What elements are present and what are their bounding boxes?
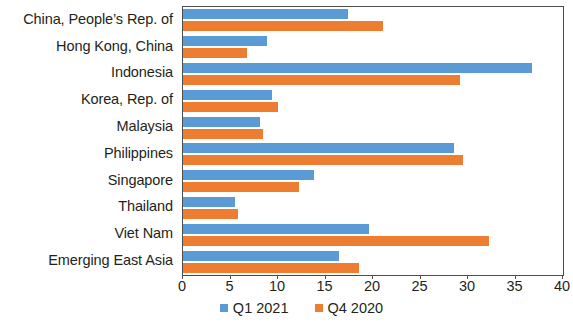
category-axis: China, People’s Rep. ofHong Kong, ChinaI…: [0, 6, 178, 274]
bar-q4-2020: [183, 129, 263, 139]
axis-tick-label: 25: [411, 279, 427, 295]
axis-tick-label: 20: [364, 279, 380, 295]
axis-tick-label: 30: [459, 279, 475, 295]
bar-q4-2020: [183, 182, 299, 192]
bar-q1-2021: [183, 170, 314, 180]
category-label: Thailand: [0, 194, 178, 221]
bar-q1-2021: [183, 90, 272, 100]
bars-layer: [183, 7, 563, 275]
category-label: China, People’s Rep. of: [0, 6, 178, 33]
category-label: Viet Nam: [0, 220, 178, 247]
chart-legend: Q1 2021Q4 2020: [0, 301, 573, 316]
bar-group: [183, 34, 563, 61]
legend-label: Q1 2021: [233, 301, 289, 316]
legend-item[interactable]: Q1 2021: [220, 301, 289, 316]
value-axis: 0510152025303540: [182, 275, 564, 299]
axis-tick-label: 40: [554, 279, 570, 295]
category-label: Malaysia: [0, 113, 178, 140]
axis-tick-label: 35: [506, 279, 522, 295]
category-label: Emerging East Asia: [0, 247, 178, 274]
axis-tick-label: 5: [225, 279, 233, 295]
axis-tick-label: 10: [269, 279, 285, 295]
bar-q4-2020: [183, 75, 460, 85]
plot-area: [182, 6, 564, 276]
bar-q4-2020: [183, 48, 247, 58]
bar-q1-2021: [183, 63, 532, 73]
bar-group: [183, 7, 563, 34]
bar-q4-2020: [183, 21, 383, 31]
bar-group: [183, 168, 563, 195]
category-label: Philippines: [0, 140, 178, 167]
legend-swatch-icon: [315, 304, 323, 312]
bar-q1-2021: [183, 143, 454, 153]
axis-tick-label: 0: [178, 279, 186, 295]
bar-q4-2020: [183, 236, 489, 246]
bar-q4-2020: [183, 155, 463, 165]
bar-group: [183, 221, 563, 248]
bar-q1-2021: [183, 117, 260, 127]
bar-q1-2021: [183, 197, 235, 207]
axis-tick-label: 15: [316, 279, 332, 295]
bar-group: [183, 87, 563, 114]
bar-group: [183, 61, 563, 88]
legend-item[interactable]: Q4 2020: [315, 301, 384, 316]
legend-swatch-icon: [220, 304, 228, 312]
bar-group: [183, 141, 563, 168]
category-label: Indonesia: [0, 60, 178, 87]
bar-q4-2020: [183, 102, 278, 112]
bar-q1-2021: [183, 9, 348, 19]
bar-q4-2020: [183, 209, 238, 219]
category-label: Singapore: [0, 167, 178, 194]
bar-group: [183, 114, 563, 141]
bar-q4-2020: [183, 263, 359, 273]
category-label: Hong Kong, China: [0, 33, 178, 60]
bar-group: [183, 195, 563, 222]
bar-q1-2021: [183, 224, 369, 234]
bar-group: [183, 248, 563, 275]
bar-q1-2021: [183, 36, 267, 46]
bar-chart: China, People’s Rep. ofHong Kong, ChinaI…: [0, 0, 573, 325]
bar-q1-2021: [183, 251, 339, 261]
category-label: Korea, Rep. of: [0, 86, 178, 113]
legend-label: Q4 2020: [328, 301, 384, 316]
